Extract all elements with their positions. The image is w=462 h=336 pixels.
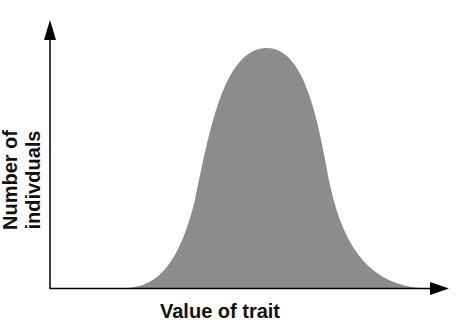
y-axis-arrow-icon (44, 20, 56, 40)
x-axis-arrow-icon (430, 282, 449, 295)
y-axis-label: Number of indivduals (0, 80, 45, 280)
bell-curve-area (128, 48, 420, 288)
chart-canvas (0, 0, 462, 336)
x-axis-label: Value of trait (160, 300, 280, 323)
